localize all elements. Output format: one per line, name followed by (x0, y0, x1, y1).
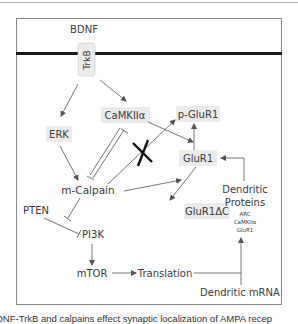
inhibit-bar-4 (77, 230, 81, 238)
arrow-trkb-camkii (100, 80, 126, 101)
pi3k-label: PI3K (82, 229, 104, 240)
pten-label: PTEN (23, 205, 49, 216)
block-x-icon (133, 140, 152, 166)
arrow-trkb-erk (61, 84, 78, 116)
pglur1-label: p-GluR1 (178, 109, 219, 120)
figure-caption: DNF-TrkB and calpains effect synaptic lo… (0, 313, 272, 324)
dendritic-proteins-title-1: Dendritic (222, 184, 268, 195)
arrow-proteins-glur1 (221, 158, 244, 181)
translation-label: Translation (137, 268, 193, 279)
signaling-diagram: BDNF TrkB ERK CaMKIIα p-GluR1 GluR1 GluR… (0, 0, 298, 324)
dendritic-protein-arc: ARC (239, 211, 250, 217)
erk-label: ERK (49, 129, 69, 140)
glur1dc-label: GluR1ΔC (185, 206, 229, 217)
dendritic-protein-camkii: CaMKIIα (234, 219, 257, 225)
glur1-label: GluR1 (183, 153, 213, 164)
inhibit-mcalpain-pi3k (68, 198, 80, 218)
dendritic-mrna-label: Dendritic mRNA (200, 287, 280, 298)
bdnf-label: BDNF (70, 24, 98, 35)
mtor-label: mTOR (77, 268, 108, 279)
inhibit-bar-2 (87, 176, 94, 180)
inhibit-camkii-mcalpain-2 (90, 128, 120, 175)
inhibit-pten-pi3k (44, 218, 79, 234)
inhibit-camkii-mcalpain (93, 130, 124, 178)
dendritic-protein-glur1: GluR1 (237, 227, 254, 233)
arrow-mcalpain-glur1 (124, 180, 181, 191)
arrow-erk-mcalpain (60, 146, 78, 180)
inhibit-bar-3 (64, 216, 71, 221)
cell-membrane (16, 52, 282, 55)
dendritic-proteins-title-2: Proteins (225, 197, 265, 208)
trkb-label: TrkB (82, 50, 92, 70)
camkii-label: CaMKIIα (105, 110, 146, 121)
arrow-glur1-glur1dc (170, 167, 196, 200)
mcalpain-label: m-Calpain (61, 184, 114, 196)
